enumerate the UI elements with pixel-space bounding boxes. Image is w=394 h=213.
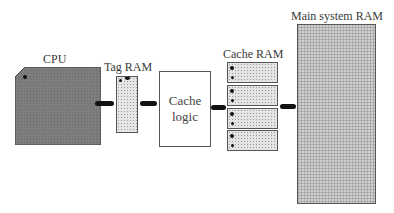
tag-ram-label: Tag RAM: [104, 60, 152, 75]
pin-dot: [230, 89, 234, 93]
cache-ram-chip: [227, 130, 278, 151]
cpu-tag-connector: [95, 101, 114, 106]
main-ram-label: Main system RAM: [291, 9, 383, 24]
pin-dot: [230, 112, 234, 116]
cpu-chip: [15, 67, 101, 145]
pin-dot: [231, 76, 234, 79]
cache-logic-box: Cache logic: [159, 71, 211, 147]
pin1-dot: [119, 79, 122, 82]
pin-dot: [230, 134, 234, 138]
notch-icon: [125, 77, 130, 80]
pin-dot: [231, 144, 234, 147]
tag-ram-chip: [116, 76, 138, 133]
cache-ram-label: Cache RAM: [223, 47, 283, 62]
cache-ram-chip: [227, 85, 278, 106]
cache-logic-line1: Cache: [169, 93, 201, 109]
pin-dot: [230, 66, 234, 70]
pin-dot: [231, 122, 234, 125]
cache-logic-line2: logic: [169, 109, 201, 125]
cache-ram-chip: [227, 108, 278, 129]
tag-logic-connector: [140, 101, 157, 106]
logic-cache-connector: [211, 105, 226, 110]
pin-dot: [231, 99, 234, 102]
main-system-ram: [297, 24, 376, 204]
cpu-label: CPU: [43, 52, 66, 67]
cache-ram-chip: [227, 62, 278, 83]
cache-main-connector: [280, 104, 296, 109]
